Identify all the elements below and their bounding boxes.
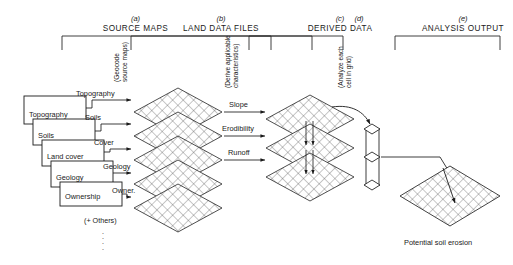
- geocode-label-geology: Geology: [103, 162, 131, 171]
- figure-artwork: [0, 0, 513, 265]
- geocode-label-topography: Topography: [76, 89, 115, 98]
- source-map-label-ownership: Ownership: [65, 192, 100, 201]
- section-brackets: [62, 36, 500, 50]
- geocode-arrow-cover: [104, 149, 131, 152]
- output-connector: [381, 157, 448, 170]
- source-map-label-soils: Soils: [38, 131, 54, 140]
- analysis-output-map: [400, 166, 500, 226]
- geocode-arrow-topography: [86, 100, 131, 108]
- geocode-arrow-soils: [95, 124, 131, 131]
- analysis-cell-column: [364, 124, 380, 190]
- derive-label-runoff: Runoff: [228, 148, 250, 157]
- geocode-label-owner: Owner.: [112, 186, 135, 195]
- bracket-b: [131, 36, 312, 50]
- output-caption: Potential soil erosion: [404, 238, 472, 247]
- source-map-label-topography: Topography: [29, 110, 68, 119]
- bracket-a: [62, 36, 271, 50]
- derived-data-layer-runoff: [266, 153, 354, 201]
- source-map-label-geology: Geology: [56, 173, 84, 182]
- others-note: (+ Others): [84, 216, 117, 225]
- derived-data-layers: [266, 95, 354, 201]
- source-map-label-landcover: Land cover: [47, 152, 84, 161]
- land-data-layers: [134, 88, 222, 232]
- derive-label-erodibility: Erodibility: [222, 124, 254, 133]
- ellipsis-dots: ....: [98, 229, 108, 250]
- geocode-label-soils: Soils: [85, 113, 101, 122]
- derive-label-slope: Slope: [229, 100, 248, 109]
- bracket-e: [395, 36, 500, 50]
- bracket-c: [249, 36, 343, 50]
- geocode-label-cover: Cover: [94, 138, 114, 147]
- figure-canvas: (a) SOURCE MAPS (b) LAND DATA FILES (c) …: [0, 0, 513, 265]
